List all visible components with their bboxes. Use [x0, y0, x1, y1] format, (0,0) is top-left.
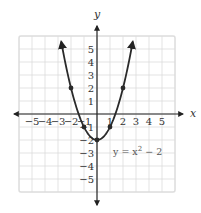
y-tick-label: 5	[88, 44, 94, 55]
x-tick-label: 4	[146, 116, 152, 127]
y-tick-label: −5	[79, 174, 94, 185]
y-tick-label: −4	[79, 161, 94, 172]
data-point	[69, 86, 74, 91]
y-tick-label: −2	[79, 135, 94, 146]
parabola-plot: −5−4−3−2−112345−5−4−3−2−112345 x y y = x…	[0, 0, 201, 213]
y-tick-label: 3	[88, 70, 94, 81]
data-point	[95, 138, 100, 143]
data-point	[108, 125, 113, 130]
data-point	[82, 125, 87, 130]
x-tick-label: 3	[133, 116, 139, 127]
y-tick-label: 1	[88, 96, 94, 107]
y-tick-label: 2	[88, 83, 94, 94]
data-point	[121, 86, 126, 91]
equation-suffix: − 2	[142, 146, 162, 157]
y-tick-label: 4	[88, 57, 94, 68]
equation-prefix: y = x	[112, 146, 138, 157]
x-tick-label: 2	[120, 116, 126, 127]
y-tick-label: −3	[79, 148, 94, 159]
equation-label: y = x2 − 2	[112, 145, 162, 157]
x-tick-label: 5	[159, 116, 165, 127]
x-axis-label: x	[190, 107, 197, 120]
y-axis-label: y	[93, 8, 101, 21]
